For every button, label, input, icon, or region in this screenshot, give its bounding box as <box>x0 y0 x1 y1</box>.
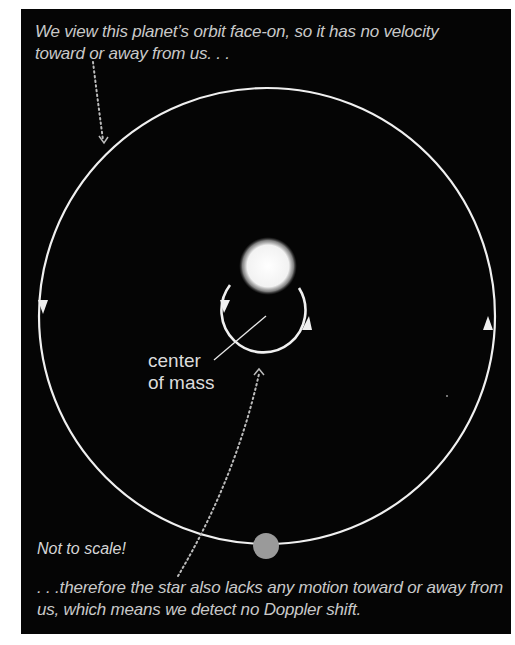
center-of-mass-label-line1: center <box>148 350 215 372</box>
star-icon <box>239 237 297 295</box>
bottom-caption: . . .therefore the star also lacks any m… <box>37 577 507 621</box>
center-of-mass-pointer <box>214 316 266 360</box>
top-caption: We view this planet’s orbit face-on, so … <box>35 21 475 65</box>
center-of-mass-label-line2: of mass <box>148 372 215 394</box>
planet-orbit <box>39 88 495 544</box>
planet-icon <box>253 533 279 559</box>
background-star-speck <box>446 395 448 397</box>
center-of-mass-label: center of mass <box>148 350 215 394</box>
top-caption-pointer <box>93 62 103 140</box>
not-to-scale-note: Not to scale! <box>37 540 126 558</box>
orbit-arrow-right-icon <box>483 316 493 330</box>
bottom-caption-pointer <box>178 374 259 576</box>
